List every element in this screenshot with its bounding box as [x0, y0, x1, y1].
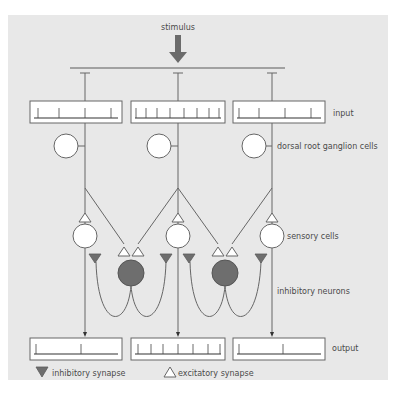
- lateral-inhibition-diagram: stimulus: [0, 0, 393, 393]
- output-label: output: [332, 344, 358, 353]
- input-box-2: [131, 101, 225, 123]
- sensory-cell-3: [260, 224, 284, 248]
- stimulus-label: stimulus: [161, 23, 195, 32]
- input-box-1: [30, 101, 122, 123]
- input-label: input: [333, 109, 354, 118]
- sensory-label: sensory cells: [287, 232, 339, 241]
- output-box-2: [131, 338, 225, 360]
- drg-cell-2: [147, 134, 171, 158]
- drg-cell-1: [54, 134, 78, 158]
- drg-cell-3: [242, 134, 266, 158]
- legend-excitatory-label: excitatory synapse: [178, 369, 254, 378]
- legend-inhibitory-label: inhibitory synapse: [52, 369, 126, 378]
- inhibitory-neuron-2: [212, 260, 238, 286]
- drg-label: dorsal root ganglion cells: [277, 142, 378, 151]
- inhibitory-label: inhibitory neurons: [277, 287, 350, 296]
- sensory-cell-1: [73, 224, 97, 248]
- input-box-3: [233, 101, 325, 123]
- sensory-cell-2: [166, 224, 190, 248]
- inhibitory-neuron-1: [118, 260, 144, 286]
- diagram-panel: [8, 15, 388, 380]
- output-box-1: [30, 338, 122, 360]
- output-box-3: [233, 338, 325, 360]
